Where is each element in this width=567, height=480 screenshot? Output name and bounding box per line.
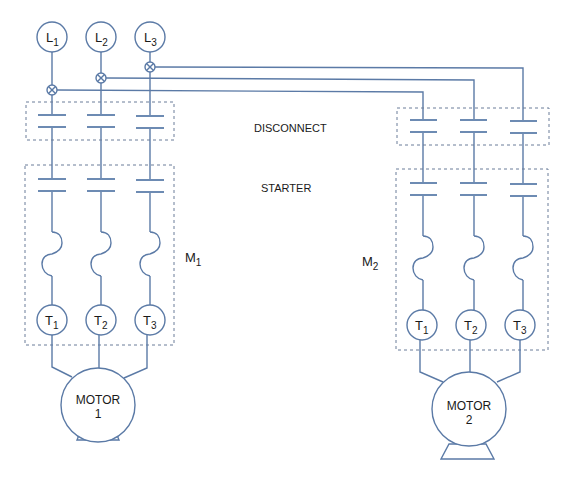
svg-text:1: 1 [95, 407, 102, 421]
right-phase-wires [423, 132, 523, 310]
junction-l3-icon [145, 62, 155, 72]
terminals-m2: T1 T2 T3 [407, 310, 535, 340]
terminals-m1: T1 T2 T3 [37, 305, 165, 335]
feeder-wires [57, 67, 523, 120]
motor-1: MOTOR 1 [52, 335, 147, 442]
disconnect-contacts-1 [38, 115, 164, 128]
disconnect-label: DISCONNECT [254, 122, 327, 134]
disconnect-box-2 [397, 108, 549, 145]
label-m2: M2 [362, 254, 379, 272]
disconnect-contacts-2 [410, 120, 537, 133]
starter-contacts-1 [38, 179, 164, 192]
disconnect-box-1 [26, 102, 174, 140]
line-source-l3: L3 [135, 22, 165, 52]
overload-heaters-2-icon [413, 236, 533, 280]
svg-text:MOTOR: MOTOR [76, 393, 121, 407]
diagram-svg: L1 L2 L3 [0, 0, 567, 480]
overload-heaters-1-icon [42, 232, 160, 276]
label-m1: M1 [185, 250, 202, 268]
motor-2: MOTOR 2 [420, 340, 520, 459]
junction-l1-icon [47, 85, 57, 95]
starter-contacts-2 [410, 183, 537, 196]
svg-text:MOTOR: MOTOR [447, 399, 492, 413]
svg-text:2: 2 [466, 413, 473, 427]
starter-label: STARTER [261, 182, 311, 194]
line-source-l2: L2 [86, 22, 116, 52]
junction-l2-icon [96, 73, 106, 83]
wiring-diagram: L1 L2 L3 [0, 0, 567, 480]
line-source-l1: L1 [37, 22, 67, 52]
